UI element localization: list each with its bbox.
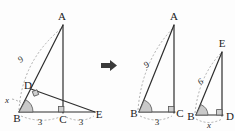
left-right-angle-mark-D — [32, 90, 38, 96]
r1-vertex-label-B: B — [130, 107, 137, 119]
figure-canvas: A D B C E 9 3 3 x A B C 9 3 — [0, 0, 235, 131]
geometry-figure: A D B C E 9 3 3 x A B C 9 3 — [0, 0, 235, 131]
left-right-angle-mark-C — [59, 107, 64, 112]
r2-vertex-label-E: E — [219, 37, 226, 49]
left-angle-label-x: x — [4, 95, 9, 105]
left-vertex-label-A: A — [58, 10, 66, 22]
left-measure-label-bc: 3 — [38, 117, 43, 127]
r1-measure-label-9: 9 — [142, 59, 151, 70]
left-diagram-group: A D B C E 9 3 3 x — [4, 10, 103, 127]
r1-vertex-label-A: A — [170, 10, 178, 22]
left-vertex-label-D: D — [24, 79, 32, 91]
transformation-arrow-shape — [101, 60, 117, 71]
r2-measure-label-x: x — [206, 120, 211, 130]
left-vertex-label-E: E — [96, 108, 103, 120]
r2-vertex-label-D: D — [226, 110, 234, 122]
r1-segment-BA — [139, 25, 174, 112]
transformation-arrow — [101, 60, 117, 71]
r1-vertex-label-C: C — [176, 107, 183, 119]
left-measure-label-ce: 3 — [79, 117, 84, 127]
r2-measure-label-6: 6 — [196, 76, 205, 87]
r2-vertex-label-B: B — [187, 110, 194, 122]
r2-right-angle-mark-D — [217, 110, 222, 115]
left-measure-label-9: 9 — [16, 54, 25, 65]
left-segment-BA — [19, 25, 63, 112]
left-vertex-label-B: B — [13, 112, 20, 124]
r1-measure-label-bc: 3 — [155, 117, 160, 127]
right-diagram-2-group: E B D 6 x — [187, 37, 234, 130]
right-diagram-1-group: A B C 9 3 — [130, 10, 183, 127]
left-vertex-label-C: C — [59, 113, 66, 125]
left-angle-arc-B — [19, 100, 33, 112]
r1-right-angle-mark-C — [169, 107, 174, 112]
